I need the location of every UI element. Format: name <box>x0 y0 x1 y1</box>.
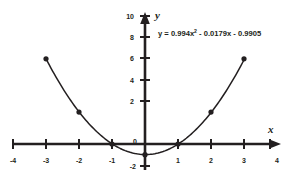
quadratic-regression-plot: -4 -3 -2 -1 1 2 3 4 10 8 6 4 2 0 -2 x y <box>0 0 287 180</box>
y-tick-label-2: 2 <box>130 98 134 105</box>
data-point <box>109 141 114 146</box>
y-tick-label-6: 6 <box>130 55 134 62</box>
equation-rest: - 0.0179x - 0.9905 <box>197 29 262 38</box>
x-tick-label-1: 1 <box>176 157 180 164</box>
y-tick-label-8: 8 <box>130 34 134 41</box>
y-axis-arrowhead <box>140 12 150 24</box>
x-tick-label--2: -2 <box>76 157 82 164</box>
data-point <box>208 109 213 114</box>
data-point <box>43 56 48 61</box>
y-tick-label-0: 0 <box>133 138 137 145</box>
y-tick-label--2: -2 <box>130 163 136 170</box>
regression-equation-label: y = 0.994x2 - 0.0179x - 0.9905 <box>158 28 262 38</box>
data-point <box>76 109 81 114</box>
y-axis-label: y <box>153 9 160 21</box>
data-point <box>175 141 180 146</box>
x-tick-label--1: -1 <box>109 157 115 164</box>
x-tick-label-3: 3 <box>242 157 246 164</box>
data-point <box>142 152 147 157</box>
equation-main: y = 0.994x <box>158 29 195 38</box>
x-tick-label--3: -3 <box>43 157 49 164</box>
y-tick-labels: 10 8 6 4 2 0 -2 <box>126 13 137 170</box>
x-tick-label-4: 4 <box>275 157 279 164</box>
y-tick-label-10: 10 <box>126 13 134 20</box>
x-axis-label: x <box>267 123 274 135</box>
x-tick-label--4: -4 <box>10 157 16 164</box>
data-point <box>241 56 246 61</box>
x-tick-label-2: 2 <box>209 157 213 164</box>
figure-container: -4 -3 -2 -1 1 2 3 4 10 8 6 4 2 0 -2 x y <box>0 0 287 180</box>
y-tick-label-4: 4 <box>130 77 134 84</box>
